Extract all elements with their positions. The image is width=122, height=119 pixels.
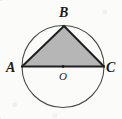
vertex-label-C: C: [106, 61, 115, 75]
triangle-ABC-shaded-region: [22, 26, 104, 67]
center-point-O-dot: [62, 65, 65, 68]
geometry-figure: A B C O: [0, 0, 122, 119]
vertex-label-A: A: [6, 61, 15, 75]
vertex-label-B: B: [59, 6, 68, 20]
vertex-label-O: O: [59, 71, 67, 82]
